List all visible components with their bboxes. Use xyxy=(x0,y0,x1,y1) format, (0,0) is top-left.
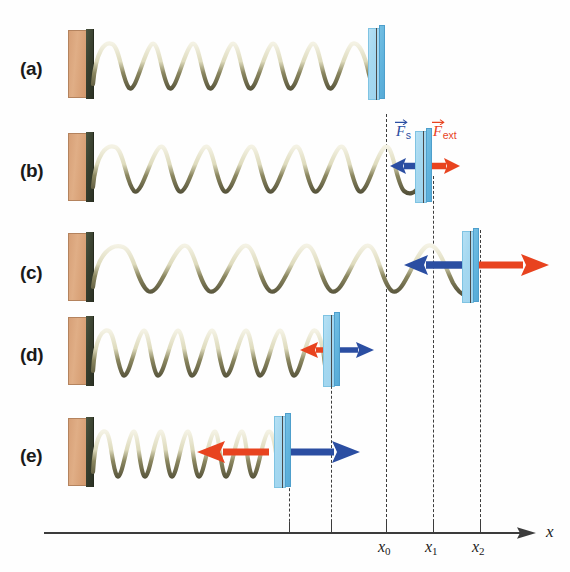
panel-label-e: (e) xyxy=(20,445,42,467)
vector-arrow-overbar xyxy=(432,118,446,125)
block-side xyxy=(426,128,432,202)
block-pin xyxy=(331,315,333,387)
external-force-label-b: Fext xyxy=(433,122,457,140)
axis-tick-guide-e xyxy=(289,522,290,533)
block-c xyxy=(462,231,479,303)
vector-arrow-overbar xyxy=(395,118,409,125)
spring-force-label-b: Fs xyxy=(396,122,411,140)
tick-subscript: 1 xyxy=(432,545,438,557)
block-a xyxy=(368,28,385,100)
x-axis xyxy=(44,524,536,542)
external-force-arrow-c xyxy=(477,253,549,277)
tick-subscript: 0 xyxy=(385,545,391,557)
wall-e xyxy=(68,418,94,486)
panel-label-d: (d) xyxy=(20,344,43,366)
wall-c xyxy=(68,233,94,301)
spring-force-arrow-c xyxy=(404,253,464,277)
external-force-arrow-e xyxy=(197,440,269,464)
spring-a xyxy=(93,34,375,96)
block-pin xyxy=(423,131,425,203)
figure-canvas: (a) (b) xyxy=(0,0,570,572)
force-subscript: s xyxy=(406,129,411,141)
panel-label-c: (c) xyxy=(20,262,42,284)
vector-symbol: F xyxy=(433,122,442,139)
block-side xyxy=(334,312,340,386)
block-side xyxy=(285,413,291,487)
block-pin xyxy=(282,416,284,488)
block-side xyxy=(379,25,385,99)
spring-b xyxy=(93,137,419,199)
spring-d xyxy=(93,321,327,383)
wall-d xyxy=(68,317,94,385)
axis-label-x1: x1 xyxy=(425,538,438,557)
block-b xyxy=(415,131,432,203)
axis-label-x2: x2 xyxy=(472,538,485,557)
axis-label-x0: x0 xyxy=(378,538,391,557)
force-symbol: F xyxy=(433,123,442,139)
spring-force-arrow-d xyxy=(336,340,374,360)
block-pin xyxy=(470,231,472,303)
panel-label-a: (a) xyxy=(20,58,42,80)
wall-b xyxy=(68,133,94,201)
block-side xyxy=(473,228,479,302)
block-pin xyxy=(376,28,378,100)
spring-force-arrow-e xyxy=(288,440,360,464)
force-subscript: ext xyxy=(443,129,457,141)
block-e xyxy=(274,416,291,488)
axis-tick-x2 xyxy=(480,522,481,533)
vector-symbol: F xyxy=(396,122,405,139)
axis-tick-x1 xyxy=(433,522,434,533)
guide-line-x1 xyxy=(433,176,434,532)
wall-a xyxy=(68,30,94,98)
block-d xyxy=(323,315,340,387)
force-symbol: F xyxy=(396,123,405,139)
axis-tick-x0 xyxy=(386,522,387,533)
tick-subscript: 2 xyxy=(479,545,485,557)
axis-tick-guide-d xyxy=(331,522,332,533)
axis-name-label: x xyxy=(546,522,554,542)
panel-label-b: (b) xyxy=(20,160,43,182)
